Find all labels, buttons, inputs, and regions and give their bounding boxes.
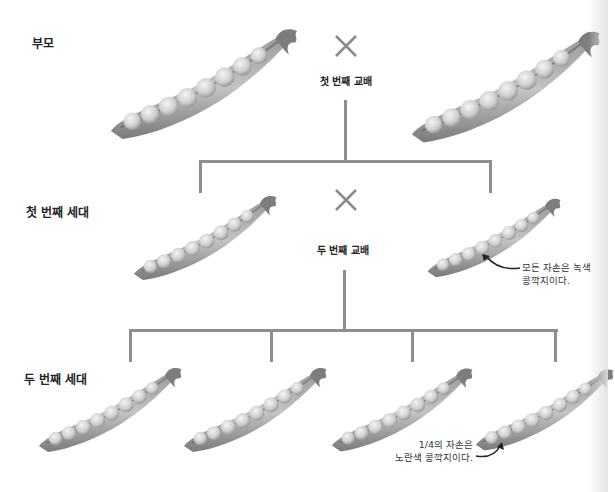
connector-line xyxy=(199,160,492,163)
connector-line xyxy=(411,329,414,362)
label-first-generation: 첫 번째 세대 xyxy=(26,203,89,220)
annotation-line: 1/4의 자손은 xyxy=(395,438,473,451)
cross-icon xyxy=(334,34,358,58)
connector-line xyxy=(129,329,132,362)
annotation-line: 모든 자손은 녹색 xyxy=(522,261,591,274)
pea-pod-f2-1 xyxy=(33,360,183,460)
cross-icon xyxy=(334,188,358,212)
connector-line xyxy=(270,329,273,362)
label-parents: 부모 xyxy=(32,34,54,51)
second-cross-label: 두 번째 교배 xyxy=(317,242,369,257)
annotation-first-generation: 모든 자손은 녹색 콩깍지이다. xyxy=(522,261,591,287)
connector-line xyxy=(554,329,557,362)
arrow-icon xyxy=(474,440,506,462)
annotation-line: 콩깍지이다. xyxy=(522,274,591,287)
page-edge-shadow xyxy=(588,0,608,492)
pea-pod-parent-left xyxy=(103,24,299,144)
annotation-second-generation: 1/4의 자손은 노란색 콩깍지이다. xyxy=(395,438,473,464)
first-cross-label: 첫 번째 교배 xyxy=(320,73,372,88)
connector-line xyxy=(489,160,492,193)
connector-line xyxy=(129,329,558,332)
connector-line xyxy=(344,100,347,162)
pea-pod-f2-2 xyxy=(178,360,328,460)
pea-pod-f1-left xyxy=(128,190,278,286)
connector-line xyxy=(343,270,346,332)
pea-pod-parent-right xyxy=(404,27,602,147)
arrow-icon xyxy=(478,252,523,274)
connector-line xyxy=(199,160,202,193)
annotation-line: 노란색 콩깍지이다. xyxy=(395,451,473,464)
